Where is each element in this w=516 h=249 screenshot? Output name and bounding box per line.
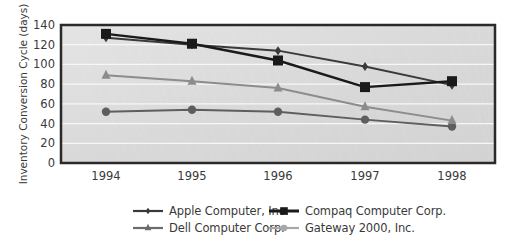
y-tick-label: 60 <box>40 97 55 111</box>
y-tick-label: 80 <box>40 77 55 91</box>
y-tick-label: 100 <box>33 57 55 71</box>
triangle-marker-icon <box>132 222 164 234</box>
y-tick-label: 140 <box>33 18 55 32</box>
circle-marker-icon <box>268 222 300 234</box>
square-marker-icon <box>268 205 300 217</box>
x-tick-label: 1994 <box>91 169 120 183</box>
legend-item-gateway: Gateway 2000, Inc. <box>268 221 415 235</box>
legend-item-dell: Dell Computer Corp. <box>132 221 285 235</box>
x-axis-ticks: 19941995199619971998 <box>91 169 466 183</box>
line-chart: 020406080100120140 19941995199619971998 … <box>0 0 516 200</box>
plot-area <box>61 25 495 163</box>
y-axis-ticks: 020406080100120140 <box>33 18 55 170</box>
y-tick-label: 120 <box>33 38 55 52</box>
legend-label: Gateway 2000, Inc. <box>305 221 415 235</box>
legend-item-compaq: Compaq Computer Corp. <box>268 204 446 218</box>
y-axis-label: Inventory Conversion Cycle (days) <box>17 4 29 185</box>
x-tick-label: 1996 <box>263 169 292 183</box>
x-tick-label: 1995 <box>177 169 206 183</box>
y-tick-label: 20 <box>40 136 55 150</box>
legend-label: Compaq Computer Corp. <box>305 204 446 218</box>
y-tick-label: 40 <box>40 117 55 131</box>
y-tick-label: 0 <box>48 156 55 170</box>
x-tick-label: 1998 <box>437 169 466 183</box>
legend-item-apple: Apple Computer, Inc. <box>132 204 289 218</box>
x-tick-label: 1997 <box>350 169 379 183</box>
diamond-marker-icon <box>132 205 164 217</box>
